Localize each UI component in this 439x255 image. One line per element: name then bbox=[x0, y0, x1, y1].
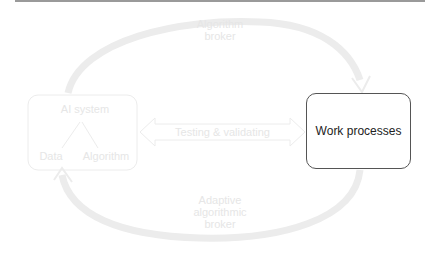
bottom-arrow-line3: broker bbox=[175, 218, 265, 230]
top-arrow-line1: Algorithm bbox=[175, 18, 265, 30]
top-arrow-line2: broker bbox=[175, 30, 265, 42]
ai-system-algorithm: Algorithm bbox=[76, 150, 136, 162]
work-processes-box: Work processes bbox=[306, 93, 411, 169]
ai-system-title: AI system bbox=[60, 103, 110, 115]
ai-system-data: Data bbox=[36, 150, 66, 162]
work-processes-label: Work processes bbox=[316, 124, 402, 138]
bottom-arrow-line2: algorithmic bbox=[175, 206, 265, 218]
testing-label: Testing & validating bbox=[160, 126, 285, 138]
bottom-arrow-label: Adaptive algorithmic broker bbox=[175, 194, 265, 230]
bottom-arrow-line1: Adaptive bbox=[175, 194, 265, 206]
top-arrow-label: Algorithm broker bbox=[175, 18, 265, 42]
